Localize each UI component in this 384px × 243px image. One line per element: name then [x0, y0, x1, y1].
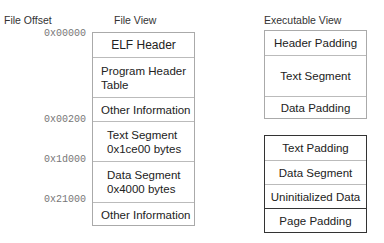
file-view-header: File View — [114, 14, 156, 26]
offset-label: 0x21000 — [6, 194, 86, 205]
cell-text: 0x4000 bytes — [107, 182, 175, 196]
offset-label: 0x00000 — [6, 28, 86, 39]
file-cell-other-information: Other Information — [93, 202, 194, 226]
exec-cell-uninitialized-data: Uninitialized Data — [265, 184, 366, 208]
cell-text: Text Segment — [280, 69, 350, 83]
file-cell-program-header-table: Program Header Table — [93, 57, 194, 97]
executable-text-page-box: Header Padding Text Segment Data Padding — [264, 30, 367, 119]
file-cell-other-information: Other Information — [93, 97, 194, 121]
cell-text: Text Padding — [282, 141, 349, 155]
exec-cell-text-padding: Text Padding — [265, 136, 366, 160]
cell-text: Uninitialized Data — [271, 190, 361, 204]
exec-cell-page-padding: Page Padding — [265, 208, 366, 232]
cell-text: Text Segment — [107, 128, 177, 142]
offset-label: 0x1d000 — [6, 154, 86, 165]
cell-text: 0x1ce00 bytes — [107, 142, 181, 156]
cell-text: Data Segment — [279, 166, 353, 180]
file-cell-text-segment: Text Segment 0x1ce00 bytes — [93, 121, 194, 161]
file-cell-data-segment: Data Segment 0x4000 bytes — [93, 161, 194, 202]
exec-cell-header-padding: Header Padding — [265, 31, 366, 55]
file-cell-elf-header: ELF Header — [93, 33, 194, 57]
file-view-box: ELF Header Program Header Table Other In… — [92, 32, 195, 226]
cell-text: Header Padding — [274, 36, 357, 50]
exec-cell-text-segment: Text Segment — [265, 55, 366, 96]
cell-text: Other Information — [101, 103, 190, 117]
executable-data-page-box: Text Padding Data Segment Uninitialized … — [264, 135, 367, 233]
exec-cell-data-segment: Data Segment — [265, 160, 366, 184]
cell-text: Table — [101, 78, 129, 92]
cell-text: Data Padding — [281, 101, 351, 115]
cell-text: Other Information — [101, 208, 190, 222]
cell-text: Page Padding — [279, 214, 351, 228]
executable-view-header: Executable View — [264, 14, 341, 26]
exec-cell-data-padding: Data Padding — [265, 96, 366, 119]
cell-text: ELF Header — [111, 38, 176, 52]
cell-text: Data Segment — [107, 168, 181, 182]
file-offset-header: File Offset — [4, 14, 52, 26]
cell-text: Program Header — [101, 64, 186, 78]
offset-label: 0x00200 — [6, 114, 86, 125]
